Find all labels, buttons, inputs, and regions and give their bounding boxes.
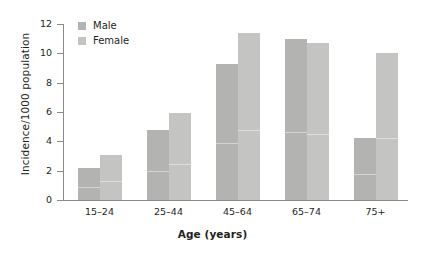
bar-male-2[interactable] bbox=[216, 64, 238, 200]
bar-group bbox=[78, 24, 122, 200]
y-tick-label: 0 bbox=[22, 195, 52, 205]
x-axis-title: Age (years) bbox=[0, 228, 425, 240]
bar-group bbox=[147, 24, 191, 200]
x-axis-line bbox=[63, 200, 408, 201]
bar-female-2[interactable] bbox=[238, 33, 260, 200]
y-tick-label: 8 bbox=[22, 78, 52, 88]
bar-group bbox=[216, 24, 260, 200]
bar-group bbox=[354, 24, 398, 200]
plot-area bbox=[63, 24, 408, 200]
x-tick-label: 75+ bbox=[331, 206, 421, 217]
y-tick-label: 10 bbox=[22, 48, 52, 58]
bar-male-4[interactable] bbox=[354, 138, 376, 200]
y-tick-label: 6 bbox=[22, 107, 52, 117]
bar-group bbox=[285, 24, 329, 200]
y-tick-label: 2 bbox=[22, 166, 52, 176]
bar-female-1[interactable] bbox=[169, 113, 191, 200]
y-tick-label: 12 bbox=[22, 19, 52, 29]
bar-male-1[interactable] bbox=[147, 130, 169, 200]
y-tick-mark bbox=[57, 200, 63, 201]
bar-female-3[interactable] bbox=[307, 43, 329, 200]
bar-chart-figure: Incidence/1000 population 024681012 Male… bbox=[0, 0, 425, 257]
bar-female-0[interactable] bbox=[100, 155, 122, 200]
bar-male-3[interactable] bbox=[285, 39, 307, 200]
y-tick-label: 4 bbox=[22, 136, 52, 146]
bar-female-4[interactable] bbox=[376, 53, 398, 200]
bar-male-0[interactable] bbox=[78, 168, 100, 200]
